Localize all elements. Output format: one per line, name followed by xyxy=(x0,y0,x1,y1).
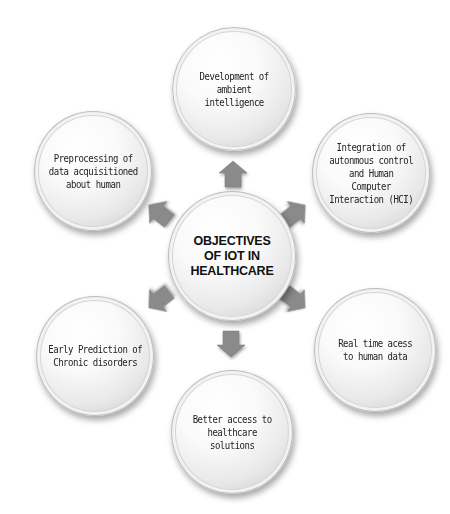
objective-label-preprocessing: Preprocessing of data acquisitioned abou… xyxy=(49,152,138,191)
objective-node-top-right: Integration of autonmous control and Hum… xyxy=(312,113,430,233)
objective-label-early-prediction: Early Prediction of Chronic disorders xyxy=(48,343,142,369)
objective-node-bottom: Better access to healthcare solutions xyxy=(171,370,293,494)
objective-label-ambient-intelligence: Development of ambient intelligence xyxy=(199,70,268,109)
objective-node-bottom-left: Early Prediction of Chronic disorders xyxy=(36,296,154,416)
arrow-down-left-icon xyxy=(138,279,180,321)
objective-label-real-time-access: Real time acess to human data xyxy=(338,337,412,363)
objective-label-healthcare-access: Better access to healthcare solutions xyxy=(192,413,271,452)
arrow-up-icon xyxy=(218,160,248,188)
objective-node-top: Development of ambient intelligence xyxy=(172,27,296,151)
objectives-diagram: OBJECTIVES OF IOT IN HEALTHCARE Developm… xyxy=(0,0,450,514)
center-node: OBJECTIVES OF IOT IN HEALTHCARE xyxy=(168,191,296,321)
objective-node-top-left: Preprocessing of data acquisitioned abou… xyxy=(34,111,152,231)
objective-label-hci-integration: Integration of autonmous control and Hum… xyxy=(329,141,413,206)
objective-node-bottom-right: Real time acess to human data xyxy=(314,288,436,412)
arrow-down-icon xyxy=(216,330,246,358)
center-node-label: OBJECTIVES OF IOT IN HEALTHCARE xyxy=(190,234,273,279)
